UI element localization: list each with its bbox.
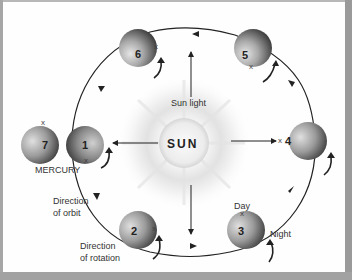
marker-5: x	[249, 62, 253, 71]
frame-border-bottom	[0, 272, 352, 280]
position-1-label: 1	[82, 139, 88, 151]
position-4-label: 4	[285, 135, 291, 147]
frame-border-right	[345, 0, 352, 280]
planet-position-3	[227, 211, 265, 249]
mercury-label: MERCURY	[35, 165, 80, 176]
position-2-label: 2	[131, 225, 137, 237]
frame-border-top	[0, 0, 352, 2]
marker-1: x	[84, 156, 88, 165]
frame-border-left	[0, 0, 3, 280]
day-label: Day	[234, 201, 250, 212]
marker-4: x	[278, 136, 282, 145]
night-label: Night	[270, 229, 291, 240]
position-3-label: 3	[238, 225, 244, 237]
direction-of-rotation-line2: of rotation	[80, 253, 120, 264]
direction-of-rotation-line1: Direction	[80, 241, 116, 252]
direction-of-orbit-line1: Direction	[53, 196, 89, 207]
planet-position-4	[289, 122, 327, 160]
position-7-label: 7	[42, 139, 48, 151]
marker-7: x	[41, 118, 45, 127]
sunlight-label: Sun light	[171, 98, 206, 109]
planet-position-5	[234, 29, 272, 67]
position-5-label: 5	[242, 49, 248, 61]
planet-position-7	[21, 126, 59, 164]
marker-6: x	[154, 42, 158, 51]
marker-2: x	[152, 224, 156, 233]
direction-of-orbit-line2: of orbit	[53, 208, 81, 219]
sun-label: SUN	[167, 137, 198, 151]
position-6-label: 6	[135, 48, 141, 60]
